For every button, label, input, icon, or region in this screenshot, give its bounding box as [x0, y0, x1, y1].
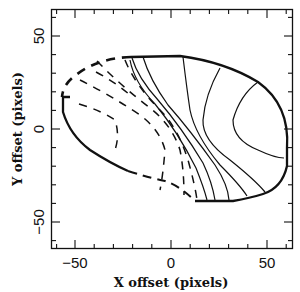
y-axis-ticks	[52, 17, 292, 240]
x-axis-ticks	[57, 10, 287, 248]
y-axis-title: Y offset (pixels)	[10, 72, 25, 187]
solid-contours	[130, 57, 284, 200]
x-tick-labels: −50 0 50	[62, 254, 275, 271]
y-tick-label: 0	[30, 125, 47, 133]
y-tick-label: 50	[30, 28, 47, 45]
contour-plot: −50 0 50 50 0 −50 X offset (pixels) Y of…	[0, 0, 300, 292]
boundary-left-lower	[63, 97, 128, 171]
boundary-dashed	[62, 57, 131, 97]
x-axis-title: X offset (pixels)	[114, 275, 229, 290]
plot-frame	[52, 10, 293, 249]
y-tick-label: −50	[30, 209, 47, 234]
x-tick-label: 50	[259, 254, 276, 271]
x-tick-label: 0	[167, 254, 175, 271]
boundary-bottom-dashed	[128, 171, 195, 201]
x-tick-label: −50	[62, 254, 87, 271]
y-tick-labels: 50 0 −50	[30, 28, 47, 235]
